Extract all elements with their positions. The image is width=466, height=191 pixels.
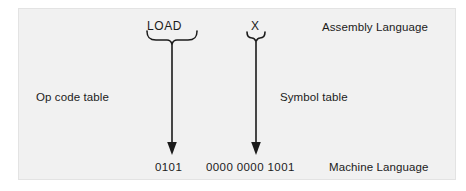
machine-code-opcode: 0101	[155, 160, 182, 174]
machine-code-operand: 0000 0000 1001	[206, 160, 295, 174]
op-code-table-label: Op code table	[36, 90, 109, 104]
machine-language-row-label: Machine Language	[329, 160, 428, 174]
assembly-token-opcode: LOAD	[147, 19, 182, 33]
symbol-table-label: Symbol table	[280, 90, 348, 104]
diagram-canvas: LOAD X Assembly Language Op code table S…	[0, 0, 466, 191]
assembly-language-row-label: Assembly Language	[322, 20, 428, 34]
assembly-token-operand: X	[251, 19, 259, 33]
